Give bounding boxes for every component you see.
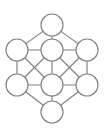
graph-edge — [26, 31, 43, 43]
graph-edge — [61, 31, 78, 43]
graph-node-lower-right — [76, 74, 98, 96]
graph-node-bottom — [41, 101, 63, 123]
graph-canvas — [0, 0, 104, 134]
graph-node-top — [41, 14, 63, 36]
graph-node-upper-center — [41, 39, 63, 61]
graph-node-upper-left — [6, 39, 28, 61]
graph-node-upper-right — [76, 39, 98, 61]
graph-diagram — [0, 0, 104, 134]
graph-node-lower-center — [41, 74, 63, 96]
graph-node-lower-left — [6, 74, 28, 96]
graph-edge — [26, 92, 44, 106]
graph-edge — [61, 92, 79, 106]
